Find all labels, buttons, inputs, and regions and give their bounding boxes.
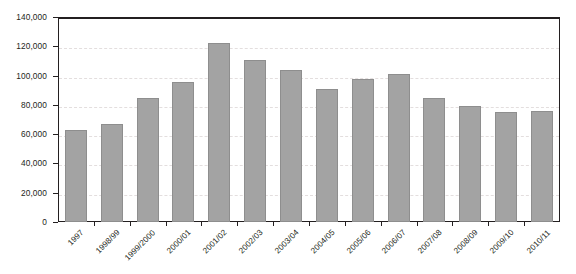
bar[interactable] bbox=[244, 60, 266, 222]
x-tick-label: 2001/02 bbox=[201, 228, 229, 256]
bar-slot bbox=[130, 17, 166, 222]
bar[interactable] bbox=[352, 79, 374, 223]
x-tick-label: 2005/06 bbox=[345, 228, 373, 256]
bar-slot bbox=[237, 17, 273, 222]
bar-slot bbox=[94, 17, 130, 222]
x-tick-label: 2000/01 bbox=[165, 228, 193, 256]
y-tick-label: 40,000 bbox=[21, 158, 47, 168]
y-tick-label: 120,000 bbox=[16, 41, 47, 51]
bar-chart: 020,00040,00060,00080,000100,000120,0001… bbox=[0, 0, 576, 274]
y-axis: 020,00040,00060,00080,000100,000120,0001… bbox=[0, 0, 58, 240]
bar-slot bbox=[273, 17, 309, 222]
x-tick-label: 2010/11 bbox=[525, 228, 552, 255]
bar[interactable] bbox=[316, 89, 338, 222]
bar-slot bbox=[201, 17, 237, 222]
bar-slot bbox=[309, 17, 345, 222]
x-tick-label: 2009/10 bbox=[488, 228, 516, 256]
bar[interactable] bbox=[280, 70, 302, 222]
x-tick-label: 2004/05 bbox=[309, 228, 337, 256]
bar-slot bbox=[524, 17, 560, 222]
y-tick-label: 60,000 bbox=[21, 129, 47, 139]
x-tick-label: 2007/08 bbox=[416, 228, 444, 256]
x-tick-label: 1998/99 bbox=[94, 228, 122, 256]
bar-slot bbox=[452, 17, 488, 222]
bar[interactable] bbox=[423, 98, 445, 222]
bar-slot bbox=[381, 17, 417, 222]
x-tick-label: 2003/04 bbox=[273, 228, 301, 256]
bar-slot bbox=[488, 17, 524, 222]
x-axis-labels: 19971998/991999/20002000/012001/022002/0… bbox=[58, 226, 560, 274]
y-tick-label: 100,000 bbox=[16, 71, 47, 81]
bar[interactable] bbox=[531, 111, 553, 222]
bar[interactable] bbox=[172, 82, 194, 222]
bar-slot bbox=[58, 17, 94, 222]
y-tick-label: 140,000 bbox=[16, 12, 47, 22]
y-tick-label: 0 bbox=[42, 217, 47, 227]
bar[interactable] bbox=[495, 112, 517, 222]
bar[interactable] bbox=[459, 106, 481, 222]
bar[interactable] bbox=[388, 74, 410, 222]
y-tick-label: 80,000 bbox=[21, 100, 47, 110]
x-tick-label: 1999/2000 bbox=[123, 228, 157, 262]
x-tick-label: 2002/03 bbox=[237, 228, 265, 256]
x-tick-label: 1997 bbox=[66, 228, 85, 247]
bar[interactable] bbox=[137, 98, 159, 222]
bar[interactable] bbox=[65, 130, 87, 222]
bar[interactable] bbox=[101, 124, 123, 222]
x-tick-label: 2006/07 bbox=[380, 228, 408, 256]
y-tick-label: 20,000 bbox=[21, 188, 47, 198]
bar-slot bbox=[166, 17, 202, 222]
bars-layer bbox=[58, 17, 560, 222]
x-tick-label: 2008/09 bbox=[452, 228, 480, 256]
bar[interactable] bbox=[208, 43, 230, 222]
bar-slot bbox=[417, 17, 453, 222]
bar-slot bbox=[345, 17, 381, 222]
